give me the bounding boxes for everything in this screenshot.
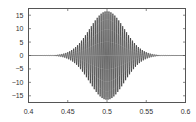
x-tick-label: 0.55 [139, 108, 153, 115]
y-tick-label: 15 [16, 12, 24, 19]
y-tick-label: 0 [20, 52, 24, 59]
y-tick-label: −5 [16, 65, 24, 72]
x-tick-label: 0.4 [24, 108, 34, 115]
y-tick-label: −15 [12, 92, 24, 99]
x-tick-label: 0.5 [102, 108, 112, 115]
y-tick-label: 5 [20, 39, 24, 46]
y-tick-label: 10 [16, 25, 24, 32]
y-tick-label: −10 [12, 79, 24, 86]
x-tick-label: 0.45 [61, 108, 75, 115]
wave-packet-chart: 151050−5−10−15 0.40.450.50.550.6 [0, 0, 196, 122]
x-tick-label: 0.6 [181, 108, 191, 115]
